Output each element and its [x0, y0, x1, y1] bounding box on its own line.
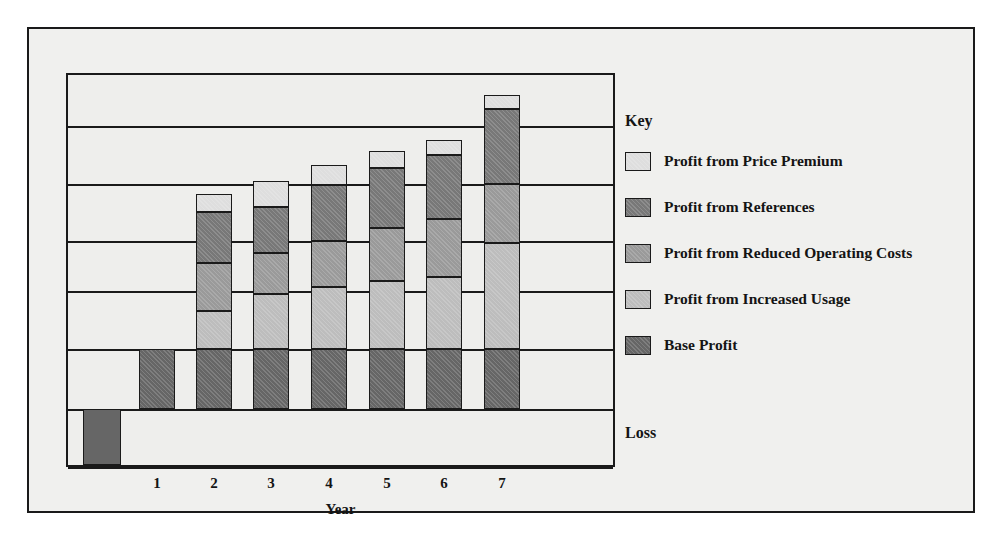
bar-segment-base-profit: [426, 349, 462, 409]
gridline: [68, 126, 613, 128]
legend-title: Key: [625, 112, 995, 130]
bar-year-0-loss[interactable]: [83, 409, 121, 465]
legend-item-base-profit[interactable]: Base Profit: [625, 322, 995, 368]
bar-segment-base-profit: [253, 349, 289, 409]
bar-segment-reduced-costs: [196, 263, 232, 311]
bar-segment-increased-usage: [253, 294, 289, 349]
x-tick-4: 4: [311, 475, 347, 492]
bar-segment-increased-usage: [311, 287, 347, 349]
x-tick-7: 7: [484, 475, 520, 492]
x-tick-1: 1: [139, 475, 175, 492]
bar-segment-base-profit: [196, 349, 232, 409]
legend-item-price-premium[interactable]: Profit from Price Premium: [625, 138, 995, 184]
bar-segment-base-profit: [311, 349, 347, 409]
x-axis-title: Year: [66, 501, 615, 518]
bar-segment-price-premium: [369, 151, 405, 168]
legend-swatch-reduced-operating-costs: [625, 244, 651, 263]
bar-segment-reduced-costs: [484, 184, 520, 243]
bar-segment-reduced-costs: [311, 241, 347, 287]
legend-label-increased-usage: Profit from Increased Usage: [664, 290, 850, 308]
bar-segment-price-premium: [253, 181, 289, 207]
legend-item-references[interactable]: Profit from References: [625, 184, 995, 230]
x-tick-6: 6: [426, 475, 462, 492]
legend-label-reduced-operating-costs: Profit from Reduced Operating Costs: [664, 244, 912, 262]
legend-item-increased-usage[interactable]: Profit from Increased Usage: [625, 276, 995, 322]
bar-segment-base-profit: [484, 349, 520, 409]
legend: Key Profit from Price Premium Profit fro…: [625, 112, 995, 368]
gridline: [68, 467, 613, 469]
legend-label-price-premium: Profit from Price Premium: [664, 152, 843, 170]
bar-segment-increased-usage: [484, 243, 520, 349]
legend-label-base-profit: Base Profit: [664, 336, 737, 354]
gridline: [68, 409, 613, 411]
bar-segment-base-profit: [369, 349, 405, 409]
bar-segment-references: [196, 212, 232, 263]
legend-swatch-base-profit: [625, 336, 651, 355]
bar-segment-references: [253, 207, 289, 253]
bar-segment-price-premium: [196, 194, 232, 212]
x-tick-2: 2: [196, 475, 232, 492]
bar-segment-increased-usage: [196, 311, 232, 349]
exhibit-frame: 1 2 3 4 5 6 7 Year Loss Key Profit from …: [27, 27, 975, 513]
bar-segment-price-premium: [426, 140, 462, 155]
loss-label: Loss: [625, 424, 656, 442]
figure-canvas: 1 2 3 4 5 6 7 Year Loss Key Profit from …: [0, 0, 1003, 534]
legend-swatch-references: [625, 198, 651, 217]
bar-segment-reduced-costs: [253, 253, 289, 294]
bar-segment-increased-usage: [426, 277, 462, 349]
x-tick-3: 3: [253, 475, 289, 492]
legend-swatch-increased-usage: [625, 290, 651, 309]
bar-segment-reduced-costs: [426, 219, 462, 277]
legend-swatch-price-premium: [625, 152, 651, 171]
bar-segment-references: [484, 109, 520, 184]
x-tick-5: 5: [369, 475, 405, 492]
legend-label-references: Profit from References: [664, 198, 815, 216]
bar-segment-references: [426, 155, 462, 219]
bar-segment-price-premium: [484, 95, 520, 109]
bar-segment-reduced-costs: [369, 228, 405, 281]
bar-segment-references: [369, 168, 405, 228]
bar-segment-price-premium: [311, 165, 347, 185]
bar-segment-base-profit: [139, 349, 175, 409]
bar-segment-references: [311, 185, 347, 241]
legend-item-reduced-operating-costs[interactable]: Profit from Reduced Operating Costs: [625, 230, 995, 276]
bar-segment-increased-usage: [369, 281, 405, 349]
